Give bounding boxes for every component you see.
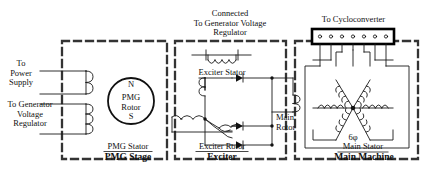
label-exciter-stator: Exciter Stator	[186, 68, 258, 78]
label-line: PMG	[122, 92, 140, 102]
terminal-block	[312, 29, 394, 44]
diagram-canvas: To Power Supply To Generator Voltage Reg…	[0, 0, 433, 180]
label-line: Voltage	[17, 109, 43, 119]
label-main-stator: Main Stator	[336, 142, 390, 152]
exciter-stator-coil	[208, 55, 236, 64]
exciter-rotor-neutral	[203, 117, 206, 120]
label-exciter-rotor: Exciter Rotor	[196, 142, 248, 152]
label-to-cycloconverter: To Cycloconverter	[306, 15, 401, 25]
caption-exciter: Exciter	[190, 153, 254, 163]
label-to-generator-voltage-regulator: To Generator Voltage Regulator	[0, 100, 60, 129]
label-line: Regulator	[213, 27, 247, 37]
label-line: Main	[276, 112, 294, 122]
label-to-power-supply: To Power Supply	[2, 59, 40, 88]
label-line: To Generator	[8, 99, 53, 109]
rotating-rectifier	[232, 74, 272, 149]
pmg-rotor-north-pole: N	[118, 80, 144, 90]
pmg-rotor-south-pole: S	[118, 112, 144, 122]
caption-pmg-stage: PMG Stage	[86, 153, 170, 163]
label-line: Supply	[9, 77, 33, 87]
label-line: Regulator	[13, 118, 47, 128]
pmg-rotor-label: PMG Rotor	[113, 93, 149, 112]
label-pmg-stator: PMG Stator	[104, 142, 152, 152]
caption-main-machine: Main Machine	[318, 153, 410, 163]
pmg-stator-coil-upper	[86, 71, 93, 94]
exciter-stator-terminals	[192, 50, 251, 60]
label-line: To Generator Voltage	[194, 18, 267, 28]
label-connected-to-generator-voltage-regulator: Connected To Generator Voltage Regulator	[174, 9, 286, 38]
label-main-rotor: Main Rotor	[276, 113, 308, 132]
label-line: Rotor	[121, 102, 140, 112]
pmg-stator-coil-lower	[86, 104, 93, 134]
label-line: Connected	[212, 8, 248, 18]
label-line: Power	[10, 68, 32, 78]
label-line: Rotor	[276, 122, 295, 132]
main-stator-neutral	[351, 106, 356, 111]
exciter-rotor-winding	[172, 78, 241, 145]
label-line: To	[17, 58, 26, 68]
